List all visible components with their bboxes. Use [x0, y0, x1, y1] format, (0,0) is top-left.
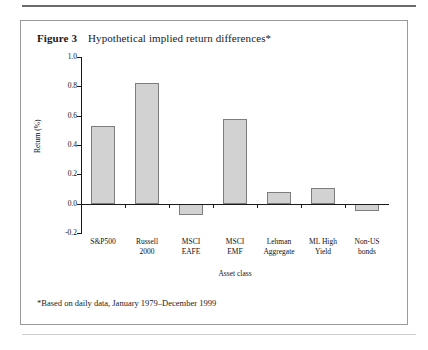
y-axis-tick-label: 1.0: [68, 53, 77, 61]
x-axis-tick-label: MSCIEMF: [213, 237, 257, 257]
y-axis-tick-label: 0.0: [68, 200, 77, 208]
x-axis-tick-mark: [301, 204, 302, 208]
y-axis-tick-label: 0.6: [68, 112, 77, 120]
x-axis-line: [81, 204, 389, 205]
chart-axes: [81, 57, 389, 233]
bar: [135, 83, 160, 203]
y-axis-tick-mark: [77, 233, 82, 234]
bar: [179, 204, 204, 216]
y-axis-tick-label: 0.8: [68, 83, 77, 91]
x-axis-tick-mark: [213, 204, 214, 208]
bar: [267, 192, 292, 204]
y-axis-tick-label: -0.2: [65, 229, 77, 237]
y-axis-tick-mark: [77, 116, 82, 117]
x-axis-tick-label: ML HighYield: [301, 237, 345, 257]
y-axis-tick-mark: [77, 145, 82, 146]
y-axis-tick-mark: [77, 57, 82, 58]
x-axis-tick-label: LehmanAggregate: [257, 237, 301, 257]
page-bottom-rule: [22, 334, 416, 335]
figure-caption: Figure 3Hypothetical implied return diff…: [37, 32, 271, 44]
y-axis-tick-label: 0.4: [68, 141, 77, 149]
x-axis-tick-labels: S&P500Russell2000MSCIEAFEMSCIEMFLehmanAg…: [81, 237, 389, 265]
bar: [91, 126, 116, 204]
bar: [223, 119, 248, 204]
figure-title: Hypothetical implied return differences*: [88, 32, 271, 44]
y-axis-tick-label: 0.2: [68, 171, 77, 179]
x-axis-tick-label: Non-USbonds: [345, 237, 389, 257]
bar: [311, 188, 336, 204]
x-axis-tick-label: MSCIEAFE: [169, 237, 213, 257]
bar-series: [81, 57, 389, 233]
figure-footnote: *Based on daily data, January 1979–Decem…: [37, 298, 216, 308]
bar: [355, 204, 380, 211]
x-axis-tick-mark: [125, 204, 126, 208]
chart-plot-area: Return (%) 1.00.80.60.40.20.0-0.2 S&P500…: [37, 57, 393, 289]
x-axis-tick-label: S&P500: [81, 237, 125, 247]
x-axis-tick-mark: [257, 204, 258, 208]
x-axis-tick-label: Russell2000: [125, 237, 169, 257]
x-axis-tick-mark: [169, 204, 170, 208]
y-axis-title: Return (%): [33, 119, 42, 153]
figure-number: Figure 3: [37, 32, 77, 44]
x-axis-tick-mark: [345, 204, 346, 208]
figure-container: Figure 3Hypothetical implied return diff…: [20, 20, 408, 325]
y-axis-tick-labels: 1.00.80.60.40.20.0-0.2: [51, 57, 77, 233]
y-axis-tick-mark: [77, 174, 82, 175]
y-axis-tick-mark: [77, 86, 82, 87]
x-axis-title: Asset class: [81, 269, 389, 278]
page-top-rule: [22, 5, 416, 7]
